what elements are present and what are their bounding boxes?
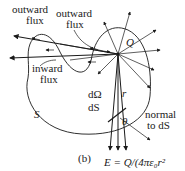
label-angle-theta: θ: [122, 115, 128, 127]
label-solid-angle: dΩ: [88, 88, 102, 100]
charge-q-point: [117, 53, 120, 56]
label-inward-flux-2: flux: [40, 73, 58, 85]
label-normal-2: to dS: [147, 119, 170, 131]
label-charge-q: Q: [126, 36, 134, 48]
label-distance-r: r: [122, 87, 127, 99]
label-outward-flux-right-2: flux: [66, 18, 84, 30]
gauss-law-diagram: outward flux outward flux inward flux Q …: [0, 0, 185, 171]
label-outward-flux-left-2: flux: [26, 14, 44, 26]
label-field-equation: E = Q/(4πε₀r²: [103, 156, 166, 169]
label-surface-s: S: [34, 108, 40, 120]
label-area-element: dS: [88, 101, 100, 113]
panel-label: (b): [78, 152, 91, 165]
field-rays: [10, 12, 160, 150]
flux-arrows: [32, 30, 110, 66]
